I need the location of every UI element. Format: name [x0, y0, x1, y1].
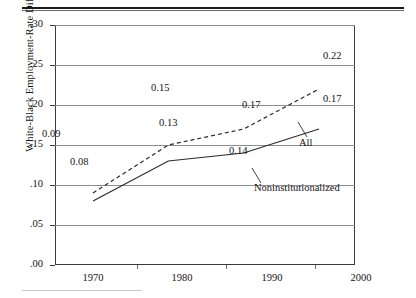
plot-area: .30 .25 .20 .15 .10 .05 .00 1970 1980 19…: [55, 25, 355, 265]
y-tick-label: .10: [15, 178, 43, 189]
top-rule-thick: [22, 7, 404, 9]
bottom-rule: [22, 290, 142, 291]
top-rule-thin: [22, 10, 404, 11]
point-label-non-1980: 0.13: [159, 117, 177, 128]
point-label-non-2000: 0.17: [323, 93, 341, 104]
point-label-all-1980: 0.15: [151, 82, 169, 93]
series-annotation-all: All: [299, 137, 312, 148]
x-tick-label: 1980: [152, 272, 212, 283]
point-label-non-1990: 0.14: [229, 145, 247, 156]
chart-figure: White-Black Employment-Rate Difference .…: [0, 0, 416, 298]
y-tick-label: .00: [15, 258, 43, 269]
y-tick-label: .15: [15, 138, 43, 149]
point-label-all-2000: 0.22: [323, 50, 341, 61]
y-tick-label: .20: [15, 98, 43, 109]
y-tick-label: .30: [15, 18, 43, 29]
point-label-all-1990: 0.17: [242, 99, 260, 110]
point-label-non-1970: 0.08: [70, 156, 88, 167]
y-tick-label: .25: [15, 58, 43, 69]
x-tick-label: 1970: [63, 272, 123, 283]
x-tick-label: 1990: [242, 272, 302, 283]
y-tick-mark: [50, 265, 55, 266]
x-tick-mark: [226, 265, 227, 269]
leader-line-noninstitutionalized: [252, 168, 261, 183]
series-line-all: [93, 89, 319, 193]
y-tick-label: .05: [15, 218, 43, 229]
x-tick-mark: [315, 265, 316, 269]
x-tick-label: 2000: [331, 272, 391, 283]
series-annotation-noninstitutionalized: Noninstitutionalized: [254, 182, 340, 193]
x-tick-mark: [137, 265, 138, 269]
point-label-all-1970: 0.09: [42, 128, 60, 139]
